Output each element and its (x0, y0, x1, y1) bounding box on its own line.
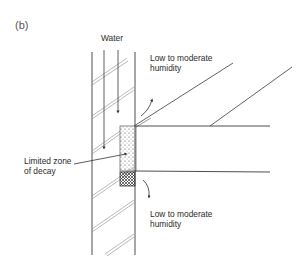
humidity-label-top: Low to moderate humidity (150, 54, 212, 73)
water-label: Water (101, 34, 123, 44)
decay-zone-label: Limited zone of decay (24, 157, 72, 176)
panel-label: (b) (15, 19, 28, 31)
humidity-arrow-top (141, 100, 152, 116)
water-flow-arrows (104, 50, 118, 148)
decay-pointer (74, 154, 126, 164)
diagram-drawing (0, 0, 308, 271)
bearing-block (120, 172, 135, 186)
humidity-label-bottom: Low to moderate humidity (150, 210, 212, 229)
humidity-arrow-bottom (143, 180, 149, 197)
wall-decay-diagram: (b) (0, 0, 308, 271)
beam (135, 126, 270, 172)
decay-zone (120, 126, 136, 171)
